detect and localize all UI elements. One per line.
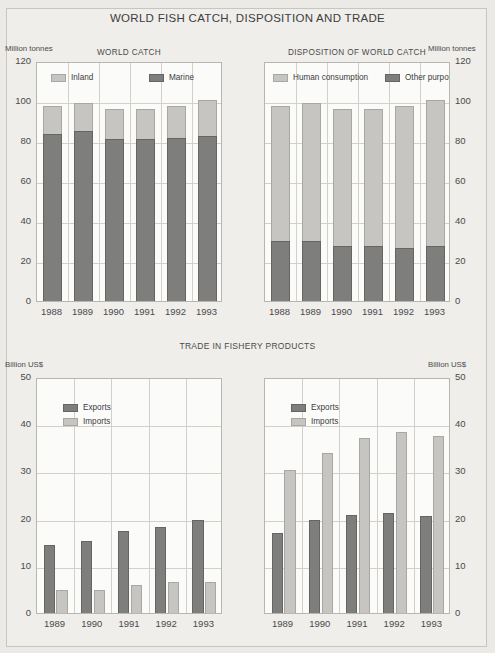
bar-exports: [81, 541, 92, 614]
legend-item: Other purposes: [385, 73, 450, 82]
legend-item: Exports: [291, 403, 339, 412]
legend-swatch-icon: [149, 74, 164, 82]
bar-segment-human-consumption: [302, 103, 321, 241]
bar-segment-human-consumption: [395, 106, 414, 248]
gridline-horizontal: [265, 183, 449, 184]
x-axis-tick-label: 1990: [301, 618, 338, 629]
chart-disposition-unit: Million tonnes: [428, 44, 476, 53]
legend-swatch-icon: [385, 74, 400, 82]
gridline-horizontal: [265, 263, 449, 264]
legend-label: Exports: [311, 403, 339, 412]
bar-segment-inland: [167, 106, 186, 138]
bar-imports: [94, 590, 105, 614]
y-axis-tick-label: 100: [455, 95, 483, 106]
legend-swatch-icon: [291, 418, 306, 426]
gridline-vertical: [339, 379, 340, 613]
gridline-horizontal: [37, 263, 221, 264]
gridline-vertical: [68, 63, 69, 301]
y-axis-tick-label: 40: [455, 418, 483, 429]
bar-segment-inland: [43, 106, 62, 134]
gridline-vertical: [420, 63, 421, 301]
gridline-vertical: [186, 379, 187, 613]
bar-segment-marine: [136, 139, 155, 302]
x-axis-tick-label: 1990: [98, 306, 129, 317]
bar-segment-marine: [105, 139, 124, 302]
legend-item: Inland: [51, 73, 93, 82]
gridline-horizontal: [265, 223, 449, 224]
x-axis-tick-label: 1989: [264, 618, 301, 629]
bar-segment-other-purposes: [395, 248, 414, 302]
legend-label: Human consumption: [293, 73, 368, 82]
bar-imports: [284, 470, 295, 614]
x-axis-tick-label: 1989: [295, 306, 326, 317]
x-axis-tick-label: 1991: [110, 618, 147, 629]
legend-label: Marine: [169, 73, 194, 82]
gridline-vertical: [111, 379, 112, 613]
bar-segment-other-purposes: [271, 241, 290, 302]
chart-developed-countries-plot: ExportsImports: [264, 378, 450, 614]
bar-exports: [272, 533, 283, 614]
bar-segment-human-consumption: [271, 106, 290, 241]
y-axis-tick-label: 80: [455, 135, 483, 146]
gridline-vertical: [149, 379, 150, 613]
bar-segment-inland: [74, 103, 93, 131]
bar-segment-human-consumption: [364, 109, 383, 246]
gridline-vertical: [327, 63, 328, 301]
bar-segment-human-consumption: [333, 109, 352, 246]
legend-label: Inland: [71, 73, 93, 82]
x-axis-tick-label: 1992: [388, 306, 419, 317]
x-axis-tick-label: 1993: [185, 618, 222, 629]
gridline-vertical: [296, 63, 297, 301]
y-axis-tick-label: 80: [3, 135, 31, 146]
bar-segment-other-purposes: [302, 241, 321, 302]
bar-segment-other-purposes: [333, 246, 352, 302]
y-axis-tick-label: 0: [3, 607, 31, 618]
bar-imports: [433, 436, 444, 614]
trade-section-title: TRADE IN FISHERY PRODUCTS: [0, 341, 495, 351]
bar-segment-marine: [43, 134, 62, 302]
legend-swatch-icon: [291, 404, 306, 412]
bar-segment-marine: [167, 138, 186, 302]
y-axis-tick-label: 40: [455, 215, 483, 226]
bar-exports: [420, 516, 431, 614]
y-axis-tick-label: 120: [3, 55, 31, 66]
bar-segment-other-purposes: [426, 246, 445, 302]
chart-developing-countries: DEVELOPING COUNTRIES ExportsImports: [36, 378, 222, 614]
x-axis-tick-label: 1988: [36, 306, 67, 317]
x-axis-tick-label: 1992: [148, 618, 185, 629]
gridline-vertical: [302, 379, 303, 613]
bar-exports: [118, 531, 129, 614]
bar-imports: [396, 432, 407, 614]
legend-swatch-icon: [51, 74, 66, 82]
gridline-horizontal: [37, 473, 221, 474]
bar-imports: [322, 453, 333, 614]
x-axis-tick-label: 1989: [67, 306, 98, 317]
legend-label: Other purposes: [405, 73, 450, 82]
y-axis-tick-label: 0: [3, 295, 31, 306]
chart-world-catch-title: WORLD CATCH: [36, 48, 222, 57]
gridline-vertical: [74, 379, 75, 613]
bar-imports: [205, 582, 216, 614]
bar-segment-inland: [136, 109, 155, 139]
bar-exports: [383, 513, 394, 614]
x-axis-tick-label: 1991: [357, 306, 388, 317]
chart-disposition: DISPOSITION OF WORLD CATCH Human consump…: [264, 62, 450, 302]
gridline-horizontal: [37, 426, 221, 427]
y-axis-tick-label: 40: [3, 418, 31, 429]
bar-exports: [44, 545, 55, 614]
x-axis-tick-label: 1991: [129, 306, 160, 317]
chart-disposition-plot: Human consumptionOther purposes: [264, 62, 450, 302]
x-axis-tick-label: 1992: [376, 618, 413, 629]
chart-developed-countries-unit: Billion US$: [428, 360, 466, 369]
legend-item: Exports: [63, 403, 111, 412]
x-axis-tick-label: 1988: [264, 306, 295, 317]
bar-segment-marine: [198, 136, 217, 302]
y-axis-tick-label: 60: [455, 175, 483, 186]
gridline-horizontal: [37, 223, 221, 224]
legend-item: Imports: [63, 417, 110, 426]
y-axis-tick-label: 20: [3, 513, 31, 524]
gridline-vertical: [358, 63, 359, 301]
chart-world-catch: WORLD CATCH InlandMarine: [36, 62, 222, 302]
legend-label: Imports: [311, 417, 338, 426]
y-axis-tick-label: 20: [3, 255, 31, 266]
